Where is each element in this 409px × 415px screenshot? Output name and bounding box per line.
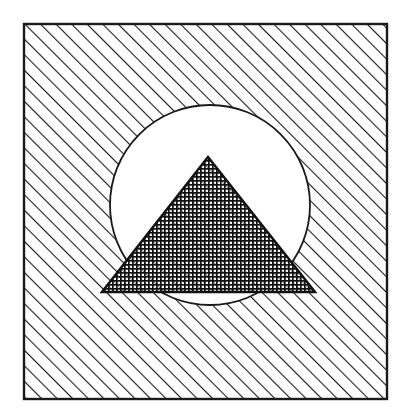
diagram-canvas — [0, 0, 409, 415]
figure-ground-diagram — [0, 0, 409, 415]
